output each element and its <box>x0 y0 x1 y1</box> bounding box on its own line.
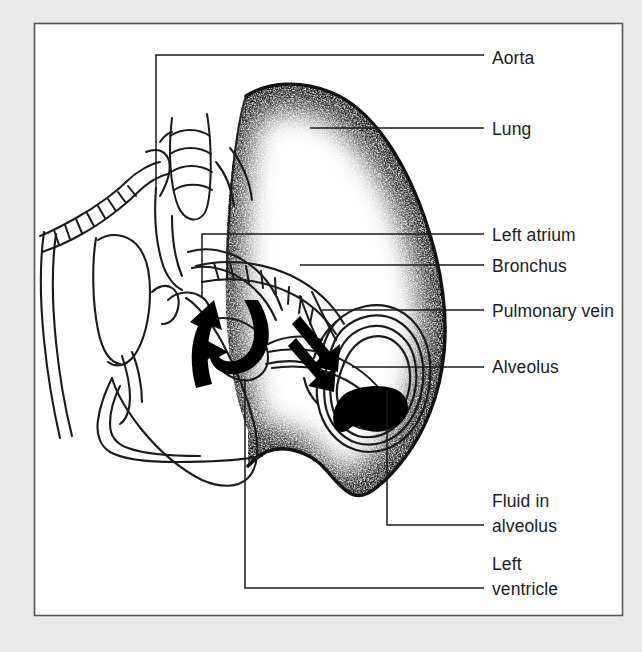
label-pulmonary-vein: Pulmonary vein <box>492 301 614 321</box>
anatomical-diagram: Aorta Lung Left atrium Bronchus Pulmonar… <box>0 0 642 652</box>
label-fluid-in-alveolus-line2: alveolus <box>492 516 557 536</box>
label-alveolus: Alveolus <box>492 357 559 377</box>
label-lung: Lung <box>492 119 531 139</box>
label-bronchus: Bronchus <box>492 256 567 276</box>
figure-root: Aorta Lung Left atrium Bronchus Pulmonar… <box>0 0 642 652</box>
label-left-ventricle-line1: Left <box>492 554 522 574</box>
label-fluid-in-alveolus-line1: Fluid in <box>492 491 549 511</box>
label-left-ventricle-line2: ventricle <box>492 579 558 599</box>
label-left-atrium: Left atrium <box>492 225 576 245</box>
label-aorta: Aorta <box>492 48 534 68</box>
